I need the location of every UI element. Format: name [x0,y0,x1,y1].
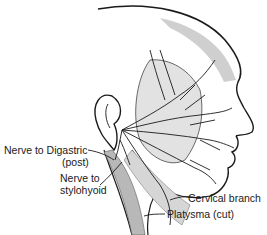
anatomy-figure: Nerve to Digastric (post) Nerve to stylo… [0,0,267,235]
nose-outline [236,82,253,136]
leader-platysma [144,214,165,216]
label-platysma-cut: Platysma (cut) [167,208,234,220]
label-stylohyoid: stylohyoid [60,184,107,196]
label-cervical-branch: Cervical branch [188,192,261,204]
label-digastric-post: (post) [62,156,89,168]
lips-chin-outline [210,136,238,196]
label-nerve-to: Nerve to [60,172,100,184]
label-nerve-to-digastric: Nerve to Digastric [4,144,87,156]
